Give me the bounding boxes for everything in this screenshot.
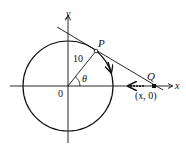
circle-tangent-diagram: y x 0 P Q 10 θ (x, 0) [0, 0, 186, 154]
point-q [152, 84, 156, 88]
point-p-label: P [97, 37, 105, 49]
y-axis-label: y [65, 8, 71, 19]
point-q-label: Q [147, 70, 155, 82]
angle-arc [75, 77, 80, 87]
radius-label: 10 [73, 53, 83, 64]
point-p [94, 49, 98, 53]
x-axis-label: x [174, 80, 180, 91]
q-coords-label: (x, 0) [135, 90, 157, 102]
origin-label: 0 [58, 88, 63, 99]
angle-label: θ [82, 73, 87, 84]
